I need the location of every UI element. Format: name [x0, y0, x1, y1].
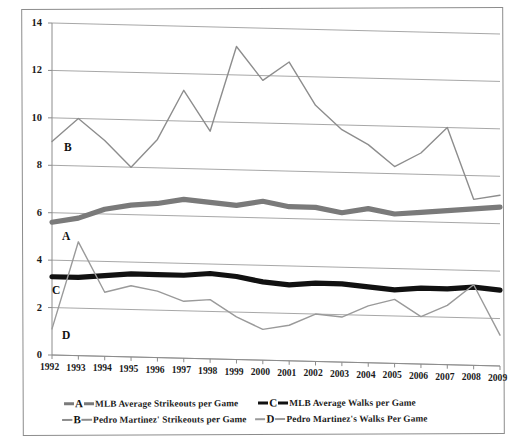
legend-label-a: MLB Average Strikeouts per Game	[95, 398, 238, 409]
x-axis-tick-label: 1998	[198, 366, 217, 376]
x-axis-tick-label: 2009	[488, 373, 507, 383]
legend-entry-b: B Pedro Martinez' Strikeouts per Game	[62, 413, 246, 426]
y-axis-tick-label: 0	[20, 350, 42, 361]
x-axis-tick-label: 1999	[224, 367, 243, 377]
x-axis-tick-label: 2005	[383, 370, 402, 380]
gridline	[52, 118, 500, 129]
y-axis-tick-label: 4	[20, 255, 42, 266]
series-line-c	[52, 274, 500, 291]
series-annotation-d: D	[62, 330, 70, 342]
gridlines	[52, 23, 500, 366]
series-annotation-a: A	[62, 231, 70, 243]
x-axis-tick-label: 1995	[119, 364, 138, 374]
chart-canvas: 02468101214 1992199319941995199619971998…	[0, 0, 520, 446]
y-axis-tick-label: 2	[20, 303, 42, 314]
legend-marker-b-icon: B	[62, 414, 92, 426]
x-axis-tick-label: 2006	[409, 371, 428, 381]
gridline	[52, 165, 500, 176]
series-annotation-c: C	[52, 285, 60, 297]
gridline	[52, 23, 500, 34]
legend-entry-d: D Pedro Martinez's Walks Per Game	[256, 413, 428, 426]
legend-label-c: MLB Average Walks per Game	[289, 398, 416, 408]
y-axis-tick-label: 12	[20, 65, 42, 76]
x-axis-tick-label: 2007	[435, 372, 454, 382]
gridline	[52, 308, 500, 319]
legend-marker-letter: C	[268, 397, 278, 408]
y-axis-ticks	[48, 23, 52, 355]
series-line-a	[52, 199, 500, 222]
legend-marker-letter: B	[72, 414, 81, 425]
x-axis-tick-label: 2002	[304, 368, 323, 378]
y-axis-tick-label: 6	[20, 208, 42, 219]
x-axis-tick-label: 2001	[277, 368, 296, 378]
x-axis-tick-label: 1993	[66, 363, 85, 373]
legend-marker-letter: D	[265, 413, 275, 424]
legend-row-2: B Pedro Martinez' Strikeouts per Game D …	[62, 410, 486, 428]
legend-label-b: Pedro Martinez' Strikeouts per Game	[93, 414, 246, 425]
y-axis-tick-label: 10	[20, 113, 42, 124]
legend-marker-a-icon: A	[64, 398, 94, 410]
y-axis-tick-label: 14	[20, 18, 42, 29]
x-axis-tick-label: 2008	[462, 372, 481, 382]
gridline	[52, 213, 500, 224]
legend-marker-letter: A	[74, 398, 84, 409]
legend-marker-d-icon: D	[256, 413, 286, 425]
x-axis-tick-label: 1996	[145, 365, 164, 375]
legend-entry-c: C MLB Average Walks per Game	[258, 397, 416, 410]
x-axis-tick-label: 1994	[93, 363, 112, 373]
gridline	[52, 70, 500, 81]
series-annotation-b: B	[64, 142, 72, 154]
chart-legend: A MLB Average Strikeouts per Game C MLB …	[46, 394, 486, 430]
legend-label-d: Pedro Martinez's Walks Per Game	[287, 414, 428, 425]
x-axis-tick-label: 1992	[40, 362, 59, 372]
legend-marker-c-icon: C	[258, 397, 288, 409]
legend-row-1: A MLB Average Strikeouts per Game C MLB …	[64, 394, 486, 412]
legend-entry-a: A MLB Average Strikeouts per Game	[64, 397, 238, 410]
x-axis-tick-label: 2004	[356, 370, 375, 380]
y-axis-tick-label: 8	[20, 160, 42, 171]
x-axis-tick-label: 1997	[172, 365, 191, 375]
axes	[52, 23, 500, 366]
chart-screenshot: 02468101214 1992199319941995199619971998…	[0, 0, 520, 446]
data-series-group	[52, 47, 500, 336]
gridline	[52, 260, 500, 271]
x-axis-tick-label: 2000	[251, 367, 270, 377]
x-axis-tick-label: 2003	[330, 369, 349, 379]
